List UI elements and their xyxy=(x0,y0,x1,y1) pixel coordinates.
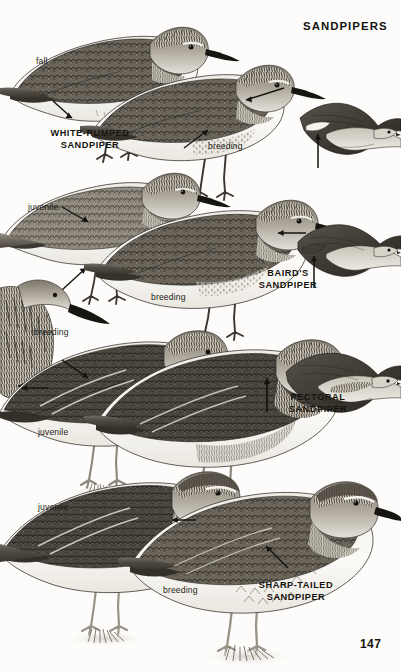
page-title: SANDPIPERS xyxy=(303,20,388,32)
species-label-line2: SANDPIPER xyxy=(0,140,180,152)
species-label-sharp-tailed: SHARP-TAILED SANDPIPER xyxy=(236,580,356,603)
species-label-line1: PECTORAL xyxy=(270,392,366,404)
male-symbol: ♂ xyxy=(44,311,50,321)
plumage-label-breeding-upper-middle: breeding xyxy=(208,141,243,151)
plumage-label-juvenile-bottom-left: juvenile xyxy=(38,502,68,512)
plumage-label-juvenile-mid-left: juvenile xyxy=(28,202,58,212)
plumage-label-juvenile-lower-left: juvenile xyxy=(38,427,68,437)
plumage-label-breeding-mid-middle: breeding xyxy=(151,292,186,302)
species-label-line2: SANDPIPER xyxy=(243,280,333,292)
plumage-label-breeding-bottom-middle: breeding xyxy=(163,585,198,595)
species-label-pectoral: PECTORAL SANDPIPER xyxy=(270,392,366,415)
plumage-label-fall-upper-left: fall xyxy=(36,56,48,66)
species-label-line2: SANDPIPER xyxy=(270,404,366,416)
species-label-line1: BAIRD'S xyxy=(243,268,333,280)
species-label-line2: SANDPIPER xyxy=(236,592,356,604)
plumage-label-breeding-male-left: breeding xyxy=(34,327,69,337)
species-label-line1: SHARP-TAILED xyxy=(236,580,356,592)
page-number: 147 xyxy=(360,637,381,651)
field-guide-page: SANDPIPERS WHITE-RUMPED SANDPIPER BAIRD'… xyxy=(0,0,401,672)
species-label-white-rumped: WHITE-RUMPED SANDPIPER xyxy=(0,128,180,151)
species-label-line1: WHITE-RUMPED xyxy=(0,128,180,140)
species-label-bairds: BAIRD'S SANDPIPER xyxy=(243,268,333,291)
